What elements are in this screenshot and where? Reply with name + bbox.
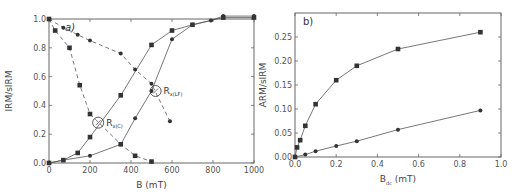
panel-a-x-axis-label: B (mT): [136, 180, 166, 190]
circle-marker: [61, 158, 65, 162]
y-tick-label: 0.20: [274, 57, 292, 66]
panel-b-series: [293, 30, 483, 159]
x-label-unit: (mT): [392, 174, 416, 184]
square-marker: [118, 142, 123, 147]
data-series: [47, 17, 154, 164]
panel-a-series: [47, 14, 257, 165]
square-marker: [88, 135, 93, 140]
series-line: [49, 19, 152, 162]
square-marker: [355, 64, 360, 69]
square-marker: [295, 145, 300, 150]
circle-marker: [88, 154, 92, 158]
x-tick-label: 400: [123, 166, 138, 175]
circle-marker: [314, 149, 318, 153]
square-marker: [118, 93, 123, 98]
x-tick-label: 0: [46, 166, 51, 175]
y-tick-label: 0.25: [274, 33, 292, 42]
panel-a-chart: 020040060080010000.00.20.40.60.81.0 Rx(C…: [4, 14, 264, 190]
crossover-slash: [96, 120, 101, 125]
data-series: [47, 14, 256, 165]
square-marker: [334, 78, 339, 83]
square-marker: [303, 124, 308, 129]
circle-marker: [47, 17, 51, 21]
x-tick-label: 0.2: [330, 160, 343, 169]
series-line: [295, 32, 480, 157]
square-marker: [149, 43, 154, 48]
x-tick-label: 1.0: [495, 160, 508, 169]
y-tick-label: 0.15: [274, 81, 292, 90]
circle-marker: [478, 108, 482, 112]
square-marker: [67, 46, 72, 51]
square-marker: [298, 138, 303, 143]
annotation-label: Rx(C): [106, 118, 123, 129]
square-marker: [478, 30, 483, 35]
y-tick-label: 0.00: [274, 153, 292, 162]
y-tick-label: 1.0: [33, 15, 46, 24]
annotation-label: Rx(LF): [164, 86, 183, 97]
data-series: [293, 108, 482, 159]
panel-b-label: b): [303, 16, 313, 27]
square-marker: [396, 47, 401, 52]
circle-marker: [119, 52, 123, 56]
panel-a-label: a): [65, 22, 75, 33]
circle-marker: [133, 67, 137, 71]
y-tick-label: 0.0: [33, 159, 46, 168]
circle-marker: [76, 33, 80, 37]
y-tick-label: 0.2: [33, 130, 46, 139]
circle-marker: [334, 144, 338, 148]
square-marker: [133, 154, 138, 159]
circle-marker: [293, 155, 297, 159]
circle-marker: [88, 39, 92, 43]
series-line: [49, 19, 170, 121]
x-tick-label: 0.4: [371, 160, 384, 169]
x-tick-label: 800: [205, 166, 220, 175]
circle-marker: [252, 14, 256, 18]
circle-marker: [133, 116, 137, 120]
square-marker: [75, 151, 80, 156]
circle-marker: [168, 119, 172, 123]
circle-marker: [170, 37, 174, 41]
x-tick-label: 0.6: [412, 160, 425, 169]
circle-marker: [47, 161, 51, 165]
y-tick-label: 0.05: [274, 129, 292, 138]
square-marker: [149, 159, 154, 164]
y-tick-label: 0.4: [33, 101, 46, 110]
circle-marker: [191, 23, 195, 27]
x-tick-label: 200: [82, 166, 97, 175]
circle-marker: [221, 14, 225, 18]
circle-marker: [209, 18, 213, 22]
panel-b-x-axis-label: Bdc (mT): [380, 174, 416, 186]
circle-marker: [150, 82, 154, 86]
circle-marker: [396, 128, 400, 132]
square-marker: [88, 112, 93, 117]
square-marker: [53, 28, 58, 33]
data-series: [293, 30, 483, 159]
crossover-annotation: Rx(LF): [150, 86, 182, 98]
y-tick-label: 0.8: [33, 44, 46, 53]
series-line: [295, 110, 480, 157]
y-tick-label: 0.6: [33, 73, 46, 82]
panel-b-y-axis-label: ARM/sIRM: [258, 63, 268, 108]
square-marker: [170, 28, 175, 33]
x-tick-label: 600: [164, 166, 179, 175]
panel-b-chart: 0.00.20.40.60.81.00.000.050.100.150.200.…: [258, 13, 507, 186]
figure: 020040060080010000.00.20.40.60.81.0 Rx(C…: [0, 0, 526, 194]
x-tick-label: 0.8: [453, 160, 466, 169]
panel-b-ticks: 0.00.20.40.60.81.00.000.050.100.150.200.…: [274, 13, 507, 169]
square-marker: [313, 102, 318, 107]
x-tick-label: 1000: [244, 166, 264, 175]
square-marker: [77, 83, 82, 88]
panel-a-y-axis-label: IRM/sIRM: [4, 70, 14, 111]
y-tick-label: 0.10: [274, 105, 292, 114]
chart-canvas: 020040060080010000.00.20.40.60.81.0 Rx(C…: [0, 0, 526, 194]
circle-marker: [303, 153, 307, 157]
circle-marker: [355, 139, 359, 143]
